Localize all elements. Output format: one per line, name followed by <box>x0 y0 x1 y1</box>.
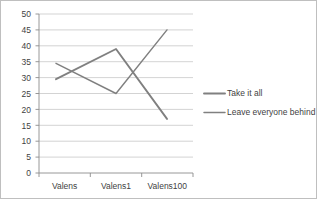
series-line-take-it-all <box>56 49 167 119</box>
y-tick-label: 25 <box>22 89 32 99</box>
x-category-labels: Valens Valens1 Valens100 <box>52 181 187 191</box>
y-tickmarks <box>36 14 40 173</box>
line-chart: 50 45 40 35 30 25 20 15 10 5 0 Valens Va… <box>1 1 317 199</box>
y-tick-label: 35 <box>22 57 32 67</box>
y-tick-labels: 50 45 40 35 30 25 20 15 10 5 0 <box>22 9 32 178</box>
chart-legend: Take it all Leave everyone behind <box>204 88 316 117</box>
y-tick-label: 5 <box>26 152 31 162</box>
y-tick-label: 40 <box>22 41 32 51</box>
y-tick-label: 45 <box>22 25 32 35</box>
legend-label-leave-everyone-behind: Leave everyone behind <box>227 107 316 117</box>
x-category-label: Valens1 <box>101 181 131 191</box>
y-tick-label: 0 <box>26 168 31 178</box>
y-tick-label: 30 <box>22 73 32 83</box>
chart-container: 50 45 40 35 30 25 20 15 10 5 0 Valens Va… <box>0 0 317 199</box>
x-category-label: Valens100 <box>148 181 188 191</box>
gridlines <box>39 14 193 157</box>
x-tickmarks <box>39 173 193 177</box>
y-tick-label: 10 <box>22 136 32 146</box>
y-tick-label: 20 <box>22 105 32 115</box>
y-tick-label: 50 <box>22 9 32 19</box>
legend-label-take-it-all: Take it all <box>227 88 263 98</box>
y-tick-label: 15 <box>22 121 32 131</box>
x-category-label: Valens <box>52 181 77 191</box>
